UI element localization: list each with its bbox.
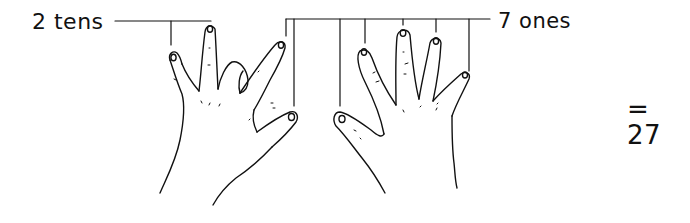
right-hand [334, 30, 469, 193]
left-hand [160, 26, 297, 205]
tens-bracket [115, 21, 211, 45]
hands-illustration [0, 0, 690, 223]
